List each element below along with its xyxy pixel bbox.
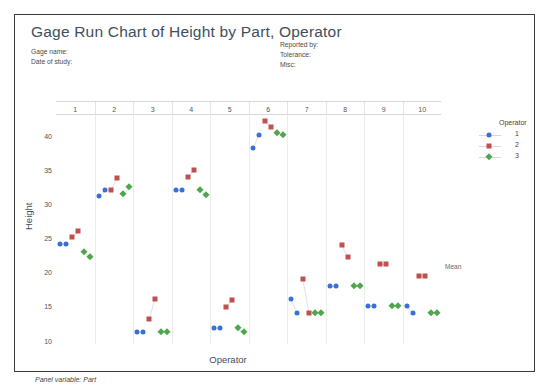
data-point-part10-op1 — [404, 303, 409, 308]
data-point-part4-op1 — [179, 188, 184, 193]
y-tick-10: 10 — [18, 337, 52, 344]
data-point-part3-op2 — [147, 317, 152, 322]
legend-label: 2 — [515, 141, 519, 148]
legend-entry-1: 1 — [477, 130, 537, 141]
data-point-part3-op2 — [153, 296, 158, 301]
data-point-part1-op1 — [58, 242, 63, 247]
y-tick-20: 20 — [18, 269, 52, 276]
data-point-part5-op2 — [224, 305, 229, 310]
data-point-part4-op2 — [191, 167, 196, 172]
data-point-part9-op1 — [372, 303, 377, 308]
panel-column-8 — [326, 115, 365, 344]
data-point-part6-op1 — [250, 146, 255, 151]
mean-reference-label: Mean — [445, 263, 461, 270]
y-tick-40: 40 — [18, 132, 52, 139]
plot-area: 12345678910 Height Operator Mean 1015202… — [15, 15, 536, 373]
data-point-part5-op1 — [218, 325, 223, 330]
panel-column-5 — [210, 115, 249, 344]
panel-header-band: 12345678910 — [56, 101, 441, 115]
data-point-part7-op1 — [295, 311, 300, 316]
y-tick-15: 15 — [18, 303, 52, 310]
data-point-part9-op2 — [384, 262, 389, 267]
data-point-part2-op1 — [102, 188, 107, 193]
data-point-part2-op2 — [114, 175, 119, 180]
data-point-part8-op2 — [339, 242, 344, 247]
data-point-part10-op2 — [422, 273, 427, 278]
data-point-part10-op2 — [416, 273, 421, 278]
panel-header-6: 6 — [249, 102, 288, 116]
panel-header-5: 5 — [210, 102, 249, 116]
legend-entry-3: 3 — [477, 152, 537, 163]
legend-label: 3 — [515, 152, 519, 159]
data-point-part6-op2 — [268, 125, 273, 130]
panel-header-9: 9 — [364, 102, 403, 116]
data-point-part4-op2 — [185, 175, 190, 180]
data-point-part3-op1 — [141, 330, 146, 335]
panel-column-9 — [364, 115, 403, 344]
legend-entry-2: 2 — [477, 141, 537, 152]
panel-header-8: 8 — [326, 102, 365, 116]
panel-header-2: 2 — [95, 102, 134, 116]
data-point-part8-op1 — [333, 283, 338, 288]
data-point-part7-op1 — [289, 296, 294, 301]
data-point-part7-op2 — [301, 277, 306, 282]
data-point-part1-op2 — [76, 228, 81, 233]
data-point-part5-op1 — [212, 325, 217, 330]
data-point-part1-op1 — [64, 242, 69, 247]
chart-frame: Gage Run Chart of Height by Part, Operat… — [14, 14, 535, 372]
data-point-part9-op1 — [366, 303, 371, 308]
panel-header-3: 3 — [133, 102, 172, 116]
data-point-part8-op1 — [327, 283, 332, 288]
panel-grid — [56, 115, 441, 344]
panel-header-7: 7 — [287, 102, 326, 116]
panel-column-2 — [95, 115, 134, 344]
data-point-part2-op2 — [108, 188, 113, 193]
legend-label: 1 — [515, 130, 519, 137]
data-point-part8-op2 — [345, 255, 350, 260]
data-point-part10-op1 — [410, 311, 415, 316]
panel-header-10: 10 — [403, 102, 442, 116]
data-point-part2-op1 — [96, 193, 101, 198]
data-point-part4-op1 — [173, 188, 178, 193]
y-tick-25: 25 — [18, 235, 52, 242]
panel-header-1: 1 — [56, 102, 95, 116]
data-point-part6-op1 — [256, 132, 261, 137]
square-icon — [487, 144, 492, 149]
data-point-part3-op1 — [135, 330, 140, 335]
data-point-part9-op2 — [378, 262, 383, 267]
panel-column-4 — [172, 115, 211, 344]
panel-variable-note: Panel variable: Part — [35, 376, 96, 383]
data-point-part1-op2 — [70, 234, 75, 239]
x-axis-label: Operator — [15, 354, 441, 365]
legend-title: Operator — [499, 119, 527, 126]
y-tick-35: 35 — [18, 166, 52, 173]
diamond-icon — [485, 153, 493, 161]
circle-icon — [487, 133, 492, 138]
panel-header-4: 4 — [172, 102, 211, 116]
y-tick-30: 30 — [18, 200, 52, 207]
data-point-part6-op2 — [262, 119, 267, 124]
data-point-part5-op2 — [230, 297, 235, 302]
